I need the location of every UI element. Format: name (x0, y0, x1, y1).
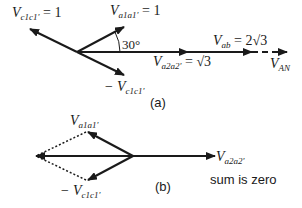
label-va1a1: Va1a1' = 1 (110, 4, 160, 20)
label-van: VAN (270, 57, 290, 73)
label-eq: = 2√3 (231, 33, 268, 48)
label-b-va1a1: Va1a1' (70, 114, 99, 130)
phasor-b-neg-vc1c1 (88, 156, 133, 180)
angle-arc (115, 32, 120, 52)
label-sub: c1c1' (21, 12, 40, 22)
dotted-parallelogram-upper (36, 132, 86, 156)
label-main: V (216, 149, 225, 164)
phasor-b-va1a1 (88, 132, 133, 156)
label-sub: a2a2' (225, 156, 245, 166)
label-vab: Vab = 2√3 (213, 34, 267, 50)
caption-a: (a) (150, 96, 166, 109)
phasor-vc1c1 (30, 29, 77, 52)
label-sub: c1c1' (82, 190, 101, 200)
diagram-b (36, 132, 215, 180)
label-sub: a1a1' (79, 120, 99, 130)
phasor-neg-vc1c1 (77, 52, 124, 75)
label-sub: ab (222, 40, 231, 50)
label-b-va2a2: Va2a2' (216, 150, 245, 166)
label-neg-vc1c1: − Vc1c1' (104, 80, 144, 96)
label-main: V (213, 33, 222, 48)
dotted-parallelogram-lower (36, 156, 86, 180)
label-vc1c1: Vc1c1' = 1 (12, 6, 61, 22)
phasor-va1a1 (77, 27, 124, 52)
label-main: V (110, 3, 119, 18)
label-main: − V (104, 79, 126, 94)
label-eq: = 1 (39, 5, 61, 20)
label-main: − V (60, 183, 82, 198)
label-main: V (270, 56, 279, 71)
label-sub: AN (279, 63, 291, 73)
label-b-neg-vc1c1: − Vc1c1' (60, 184, 100, 200)
label-main: V (12, 5, 21, 20)
label-eq: = 1 (139, 3, 161, 18)
label-sub: a2a2' (162, 61, 182, 71)
label-angle: 30° (122, 38, 140, 51)
label-va2a2: Va2a2' = √3 (153, 55, 211, 71)
label-sub: c1c1' (126, 86, 145, 96)
label-main: V (153, 54, 162, 69)
note-sum-zero: sum is zero (210, 173, 276, 186)
label-eq: = √3 (182, 54, 212, 69)
label-sub: a1a1' (119, 10, 139, 20)
caption-b: (b) (155, 180, 171, 193)
label-main: V (70, 113, 79, 128)
